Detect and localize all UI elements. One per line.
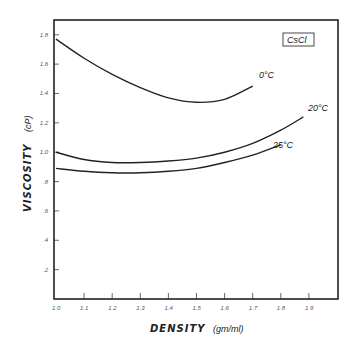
y-tick-label: 1.8 bbox=[40, 32, 49, 38]
y-axis-unit: (cP) bbox=[23, 116, 33, 133]
annotation-box-label: CsCl bbox=[287, 35, 307, 45]
x-tick-label: 1.1 bbox=[80, 305, 88, 311]
x-axis-unit: (gm/ml) bbox=[213, 324, 244, 334]
y-axis-title: VISCOSITY bbox=[22, 143, 33, 212]
y-tick-label: 1.0 bbox=[40, 149, 49, 155]
plot-frame bbox=[54, 20, 338, 299]
x-tick-label: 1.6 bbox=[221, 305, 230, 311]
chart-canvas: 1.01.11.21.31.41.51.61.71.81.9.2.4.6.81.… bbox=[0, 0, 355, 351]
y-tick-label: 1.6 bbox=[40, 61, 49, 67]
y-tick-label: 1.2 bbox=[40, 120, 49, 126]
curves bbox=[56, 39, 303, 173]
y-tick-label: 1.4 bbox=[40, 90, 49, 96]
y-axis-title-group: VISCOSITY (cP) bbox=[22, 116, 33, 213]
x-tick-label: 1.8 bbox=[277, 305, 286, 311]
x-tick-label: 1.7 bbox=[249, 305, 258, 311]
x-tick-label: 1.2 bbox=[108, 305, 117, 311]
curve-label-25c: 25°C bbox=[272, 140, 294, 150]
y-tick-label: .6 bbox=[43, 208, 49, 214]
curve-label-0c: 0°C bbox=[259, 70, 275, 80]
curve-20c bbox=[56, 117, 303, 163]
y-tick-label: .2 bbox=[43, 267, 49, 273]
x-tick-label: 1.4 bbox=[164, 305, 173, 311]
x-axis-title: DENSITY bbox=[150, 323, 206, 334]
y-tick-label: .4 bbox=[43, 237, 49, 243]
x-tick-label: 1.0 bbox=[52, 305, 61, 311]
x-tick-label: 1.5 bbox=[193, 305, 202, 311]
x-tick-label: 1.9 bbox=[305, 305, 314, 311]
curve-label-20c: 20°C bbox=[307, 103, 329, 113]
x-tick-label: 1.3 bbox=[136, 305, 145, 311]
curve-0c bbox=[56, 39, 253, 102]
y-tick-label: .8 bbox=[43, 179, 49, 185]
curve-25c bbox=[56, 145, 281, 173]
